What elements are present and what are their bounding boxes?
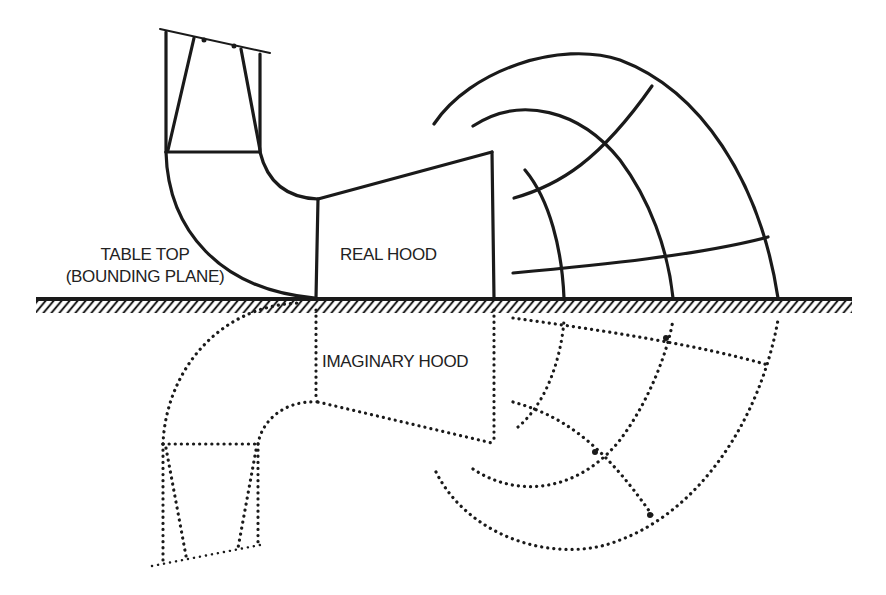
real-hood-label: REAL HOOD xyxy=(340,244,437,266)
real-flow-field xyxy=(434,54,778,298)
imaginary-hood xyxy=(152,303,494,566)
table-top-label-line1: TABLE TOP xyxy=(50,244,240,266)
diagram-canvas xyxy=(0,0,886,595)
imaginary-flow-field xyxy=(436,318,778,549)
table-top-label: TABLE TOP (BOUNDING PLANE) xyxy=(50,244,240,288)
hood-image-diagram: TABLE TOP (BOUNDING PLANE) REAL HOOD IMA… xyxy=(0,0,886,595)
imaginary-hood-label: IMAGINARY HOOD xyxy=(322,351,468,373)
table-top-plane xyxy=(36,299,852,313)
table-top-label-line2: (BOUNDING PLANE) xyxy=(50,266,240,288)
